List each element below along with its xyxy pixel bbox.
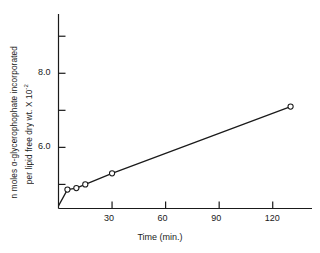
x-axis-tick-label: 60: [158, 213, 168, 223]
y-axis-tick-label: 6.0: [38, 141, 51, 151]
y-axis-ticks: [59, 36, 66, 184]
data-line: [59, 107, 291, 206]
data-point-marker: [83, 182, 88, 187]
data-point-marker: [288, 104, 293, 109]
x-axis-tick-label: 120: [265, 213, 280, 223]
y-axis-tick-label: 8.0: [38, 67, 51, 77]
data-point-marker: [74, 186, 79, 191]
x-axis-label: Time (min.): [137, 232, 182, 242]
data-point-marker: [65, 187, 70, 192]
chart-figure: n moles α-glycerophophate incorporated p…: [0, 0, 320, 253]
x-axis-tick-label: 90: [211, 213, 221, 223]
x-axis-ticks: [112, 202, 273, 209]
data-point-marker: [109, 171, 114, 176]
x-axis-tick-label: 30: [104, 213, 114, 223]
